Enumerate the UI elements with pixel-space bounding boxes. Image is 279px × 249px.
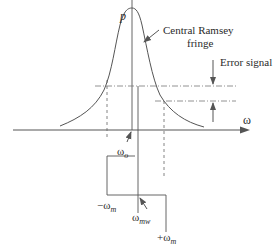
omega-o-label: ωo <box>117 146 128 157</box>
plus-omega-m-base: +ω <box>157 231 170 243</box>
frequency-axis <box>13 127 250 134</box>
plus-omega-m-sub: m <box>170 237 176 246</box>
omega-mw-sub: mw <box>139 217 150 226</box>
fringe-pointer-arrow-icon <box>144 30 159 42</box>
fringe-label: fringe <box>187 38 213 49</box>
omega-mw-label: ωmw <box>132 212 150 223</box>
omega-mw-pointer-arrow-icon <box>140 198 147 209</box>
minus-omega-m-label: −ωm <box>97 200 116 211</box>
omega-o-sub: o <box>124 151 128 160</box>
plus-omega-m-label: +ωm <box>157 232 176 243</box>
minus-omega-m-sub: m <box>110 205 116 214</box>
minus-omega-m-base: −ω <box>97 199 110 211</box>
central-ramsey-label: Central Ramsey <box>163 25 234 36</box>
axis-arrow-icon <box>240 127 250 134</box>
x-axis-label-omega: ω <box>243 114 251 126</box>
omega-o-pointer-arrow-icon <box>127 132 131 142</box>
error-signal-label: Error signal <box>220 57 272 68</box>
y-axis-label-p: p <box>120 10 126 22</box>
